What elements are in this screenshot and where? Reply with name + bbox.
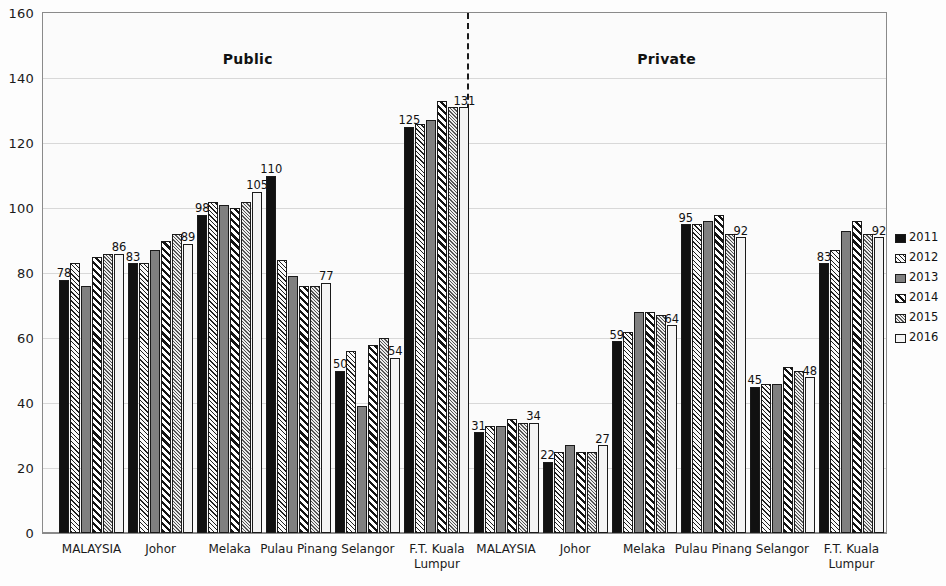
bar-2013: [150, 250, 160, 533]
bar-value-label: 27: [595, 434, 610, 446]
bar-2011: 83: [819, 263, 829, 533]
legend-swatch-icon: [895, 234, 906, 243]
bar-2013: [703, 221, 713, 533]
bar-2012: [139, 263, 149, 533]
legend-item-2016[interactable]: 2016: [895, 328, 938, 348]
bar-2015: [725, 234, 735, 533]
bar-2012: [830, 250, 840, 533]
legend-label: 2014: [909, 292, 938, 304]
legend-item-2014[interactable]: 2014: [895, 288, 938, 308]
y-axis-tick-60: 60: [0, 331, 34, 346]
y-axis-tick-0: 0: [0, 526, 34, 541]
legend-label: 2013: [909, 272, 938, 284]
bar-value-label: 89: [181, 232, 196, 244]
bar-2016: 48: [805, 377, 815, 533]
bar-2014: [852, 221, 862, 533]
bar-2014: [92, 257, 102, 533]
bar-group: 5054: [335, 13, 401, 533]
y-axis-tick-160: 160: [0, 6, 34, 21]
bar-2015: [379, 338, 389, 533]
bar-2015: [794, 371, 804, 534]
bar-2016: 131: [459, 107, 469, 533]
bar-2014: [299, 286, 309, 533]
bar-2014: [161, 241, 171, 534]
bar-2014: [576, 452, 586, 533]
bar-2012: [415, 124, 425, 534]
legend-item-2012[interactable]: 2012: [895, 248, 938, 268]
bar-2015: [241, 202, 251, 534]
bar-group: 3134: [473, 13, 539, 533]
bar-groups: 7886838998105110775054125131313422275964…: [43, 13, 886, 533]
bar-2016: 92: [736, 237, 746, 533]
bar-value-label: 54: [388, 346, 403, 358]
legend-item-2015[interactable]: 2015: [895, 308, 938, 328]
bar-2012: [346, 351, 356, 533]
y-axis-tick-140: 140: [0, 71, 34, 86]
x-axis-label: F.T. Kuala Lumpur: [804, 542, 898, 572]
bar-2011: 45: [750, 387, 760, 533]
bar-2014: [645, 312, 655, 533]
bar-2015: [656, 315, 666, 533]
bar-group: 9592: [680, 13, 746, 533]
bar-2011: 22: [543, 462, 553, 534]
bar-2016: 105: [252, 192, 262, 533]
bar-value-label: 48: [803, 366, 818, 378]
bar-value-label: 92: [872, 226, 887, 238]
bar-2011: 125: [404, 127, 414, 533]
bar-2013: [841, 231, 851, 533]
bar-2012: [623, 332, 633, 534]
bar-2013: [772, 384, 782, 534]
legend-swatch-icon: [895, 314, 906, 323]
legend-label: 2011: [909, 232, 938, 244]
bar-2016: 54: [390, 358, 400, 534]
bar-group: 7886: [59, 13, 125, 533]
bar-group: 8392: [818, 13, 884, 533]
legend: 201120122013201420152016: [895, 228, 938, 348]
bar-2012: [485, 426, 495, 533]
bar-2015: [863, 234, 873, 533]
bar-2015: [448, 107, 458, 533]
bar-2012: [70, 263, 80, 533]
bar-2015: [587, 452, 597, 533]
bar-2011: 110: [266, 176, 276, 534]
bar-2011: 59: [612, 341, 622, 533]
bar-2013: [565, 445, 575, 533]
legend-item-2011[interactable]: 2011: [895, 228, 938, 248]
bar-value-label: 83: [126, 252, 141, 264]
section-title-public: Public: [223, 51, 273, 67]
bar-group: 2227: [542, 13, 608, 533]
bar-value-label: 34: [526, 411, 541, 423]
bar-2013: [496, 426, 506, 533]
bar-2016: 34: [529, 423, 539, 534]
bar-group: 4548: [749, 13, 815, 533]
bar-2016: 27: [598, 445, 608, 533]
bar-value-label: 95: [678, 213, 693, 225]
bar-2012: [554, 452, 564, 533]
bar-2011: 31: [474, 432, 484, 533]
bar-value-label: 110: [260, 164, 282, 176]
bar-group: 5964: [611, 13, 677, 533]
bar-2014: [230, 208, 240, 533]
bar-2016: 77: [321, 283, 331, 533]
legend-swatch-icon: [895, 274, 906, 283]
y-axis-tick-40: 40: [0, 396, 34, 411]
bar-2011: 98: [197, 215, 207, 534]
bar-2013: [426, 120, 436, 533]
legend-item-2013[interactable]: 2013: [895, 268, 938, 288]
legend-label: 2016: [909, 332, 938, 344]
bar-2014: [368, 345, 378, 534]
bar-2013: [81, 286, 91, 533]
bar-group: 8389: [128, 13, 194, 533]
bar-group: 125131: [404, 13, 470, 533]
bar-2016: 92: [874, 237, 884, 533]
bar-2011: 78: [59, 280, 69, 534]
bar-2012: [208, 202, 218, 534]
bar-2016: 86: [114, 254, 124, 534]
bar-2012: [692, 224, 702, 533]
bar-group: 98105: [197, 13, 263, 533]
bar-2014: [507, 419, 517, 533]
bar-2013: [219, 205, 229, 533]
bar-2015: [310, 286, 320, 533]
bar-2015: [172, 234, 182, 533]
bar-2015: [103, 254, 113, 534]
